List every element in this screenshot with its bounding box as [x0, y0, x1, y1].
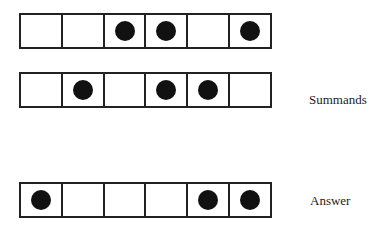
answer-row [19, 182, 272, 218]
cell [21, 74, 63, 106]
cell [146, 74, 188, 106]
summand-row-1 [19, 13, 272, 49]
cell [63, 74, 105, 106]
cell [105, 74, 147, 106]
dot-icon [198, 80, 218, 100]
cell [230, 74, 270, 106]
cell [230, 15, 270, 47]
dot-icon [73, 80, 93, 100]
summand-row-2 [19, 72, 272, 108]
dot-icon [240, 190, 260, 210]
dot-icon [156, 21, 176, 41]
cell [63, 184, 105, 216]
cell [21, 15, 63, 47]
summands-label: Summands [309, 92, 367, 108]
cell [63, 15, 105, 47]
dot-icon [240, 21, 260, 41]
answer-label: Answer [310, 193, 350, 209]
cell [146, 184, 188, 216]
cell [188, 74, 230, 106]
cell [230, 184, 270, 216]
dot-icon [115, 21, 135, 41]
cell [21, 184, 63, 216]
cell [188, 15, 230, 47]
dot-icon [198, 190, 218, 210]
dot-icon [156, 80, 176, 100]
dot-icon [31, 190, 51, 210]
cell [105, 15, 147, 47]
cell [188, 184, 230, 216]
cell [105, 184, 147, 216]
cell [146, 15, 188, 47]
